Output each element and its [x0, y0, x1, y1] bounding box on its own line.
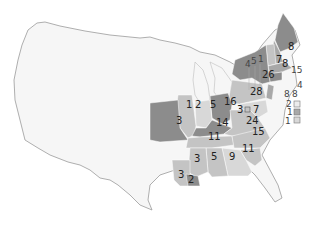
label-in: 5 — [210, 99, 216, 110]
label-nj: 8 — [292, 89, 298, 99]
label-il: 2 — [195, 99, 201, 110]
label-ct: 8 — [284, 89, 290, 99]
label-md-west: 7 — [253, 104, 259, 115]
label-mi-2: 5 — [251, 56, 257, 66]
square-dc — [294, 117, 300, 123]
label-mo: 3 — [176, 115, 182, 126]
square-va-split — [245, 107, 250, 112]
label-la: 2 — [188, 174, 194, 185]
label-vt: 8 — [282, 58, 288, 69]
label-ga: 9 — [229, 151, 235, 162]
label-pa: 28 — [250, 86, 263, 97]
square-md — [294, 109, 300, 115]
label-dc: 1 — [285, 116, 291, 126]
label-tn: 11 — [208, 131, 221, 142]
label-ri: 4 — [297, 80, 303, 90]
label-la-west: 3 — [178, 169, 184, 180]
us-electoral-map: 8 7 8 15 26 4 8 8 2 1 1 28 16 3 7 24 15 … — [0, 0, 315, 225]
label-sc: 11 — [242, 143, 255, 154]
label-va: 24 — [246, 115, 259, 126]
label-va-split: 3 — [237, 104, 243, 115]
label-il-split: 1 — [186, 99, 192, 110]
label-ny: 26 — [262, 69, 275, 80]
label-ma: 15 — [291, 65, 302, 75]
label-ky: 14 — [216, 117, 229, 128]
label-al: 5 — [211, 151, 217, 162]
label-nc: 15 — [252, 126, 265, 137]
label-me: 8 — [288, 41, 294, 52]
label-mi-3: 1 — [258, 54, 264, 64]
label-ms: 3 — [194, 153, 200, 164]
label-oh: 16 — [224, 96, 237, 107]
square-de — [294, 101, 300, 107]
